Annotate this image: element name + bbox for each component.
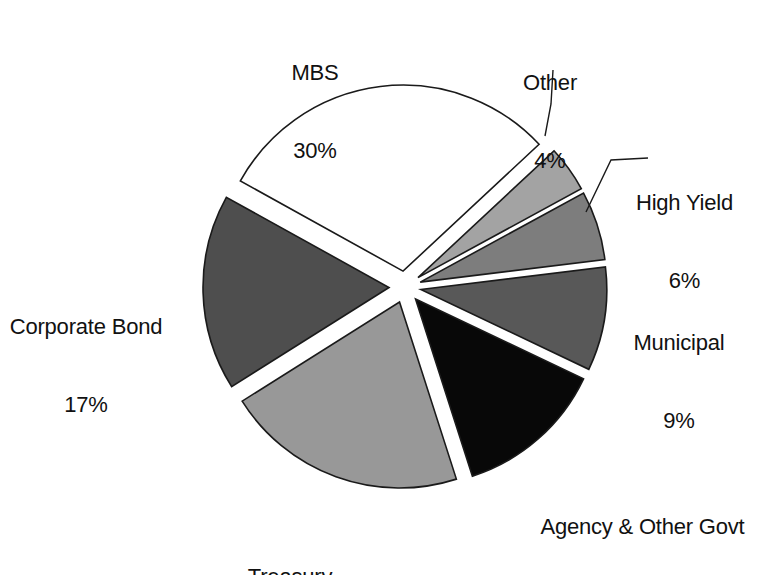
- pie-label-municipal: Municipal 9%: [604, 278, 754, 486]
- pie-label-corporate-bond-value: 17%: [2, 392, 170, 418]
- pie-label-agency-name-line1: Agency & Other Govt: [528, 514, 757, 540]
- pie-label-mbs-name: MBS: [230, 60, 400, 86]
- pie-label-mbs: MBS 30%: [230, 8, 400, 216]
- pie-chart: MBS 30% Other 4% High Yield 6% Municipal…: [0, 0, 757, 575]
- pie-label-other: Other 4%: [470, 18, 630, 226]
- pie-label-municipal-name: Municipal: [604, 330, 754, 356]
- pie-label-municipal-value: 9%: [604, 408, 754, 434]
- pie-label-other-value: 4%: [470, 148, 630, 174]
- pie-label-corporate-bond-name: Corporate Bond: [2, 314, 170, 340]
- pie-label-treasury-name: Treasury: [200, 564, 380, 575]
- pie-label-mbs-value: 30%: [230, 138, 400, 164]
- pie-label-other-name: Other: [470, 70, 630, 96]
- pie-label-treasury: Treasury 21%: [200, 512, 380, 575]
- pie-label-high-yield-name: High Yield: [612, 190, 757, 216]
- pie-label-agency: Agency & Other Govt Related 13%: [528, 462, 757, 575]
- pie-label-corporate-bond: Corporate Bond 17%: [2, 262, 170, 470]
